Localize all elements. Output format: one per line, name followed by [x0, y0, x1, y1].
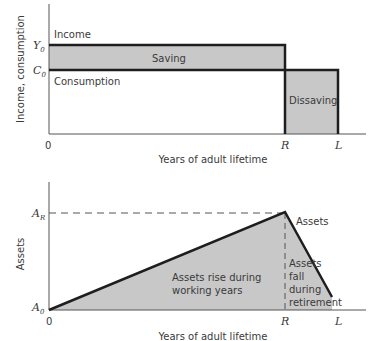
- y0-tick-label: Y0: [33, 39, 45, 54]
- ar-tick-label: AR: [31, 207, 46, 222]
- top-origin-label: 0: [45, 140, 51, 151]
- top-l-tick: L: [334, 139, 342, 152]
- bottom-chart: Assets Assets rise during working years …: [15, 182, 366, 341]
- assets-rise-label-2: working years: [172, 285, 242, 296]
- income-label: Income: [54, 29, 91, 40]
- bottom-x-axis-label: Years of adult lifetime: [158, 331, 268, 341]
- bottom-r-tick: R: [280, 315, 289, 328]
- assets-fall-label-3: during: [289, 284, 321, 295]
- assets-curve-label: Assets: [296, 216, 329, 227]
- bottom-l-tick: L: [334, 315, 342, 328]
- a0-tick-label: A0: [31, 301, 45, 316]
- life-cycle-diagram: Income Saving Consumption Dissaving Y0 C…: [0, 0, 384, 341]
- dissaving-label: Dissaving: [289, 95, 337, 106]
- assets-fall-label-4: retirement: [289, 297, 342, 308]
- bottom-origin-label: 0: [46, 316, 52, 327]
- top-r-tick: R: [280, 139, 289, 152]
- top-chart: Income Saving Consumption Dissaving Y0 C…: [15, 4, 366, 165]
- assets-fall-label-2: fall: [289, 271, 304, 282]
- assets-rise-label-1: Assets rise during: [172, 272, 261, 283]
- assets-fall-label-1: Assets: [289, 258, 322, 269]
- c0-tick-label: C0: [33, 64, 46, 79]
- consumption-label: Consumption: [54, 76, 120, 87]
- top-y-axis-label: Income, consumption: [15, 15, 26, 123]
- bottom-y-axis-label: Assets: [15, 238, 26, 271]
- top-x-axis-label: Years of adult lifetime: [158, 154, 268, 165]
- saving-label: Saving: [152, 53, 186, 64]
